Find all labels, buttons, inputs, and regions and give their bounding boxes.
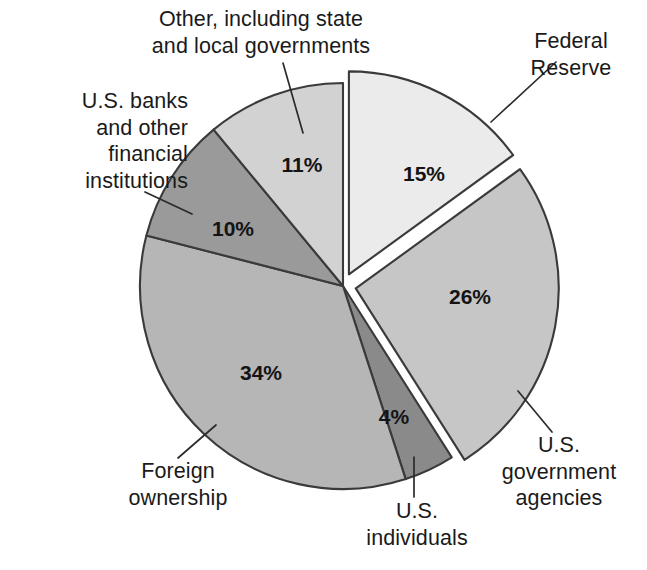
value-label-foreign-ownership: 34% bbox=[240, 361, 282, 384]
value-label-federal-reserve: 15% bbox=[403, 162, 445, 185]
value-label-other-state-local: 11% bbox=[282, 153, 323, 176]
label-us-government-agencies: U.S. government agencies bbox=[476, 432, 642, 512]
value-label-us-government-agencies: 26% bbox=[449, 285, 491, 308]
leader-line-foreign-ownership bbox=[178, 425, 216, 458]
value-label-us-banks: 10% bbox=[212, 217, 254, 240]
value-label-us-individuals: 4% bbox=[379, 405, 410, 428]
label-foreign-ownership: Foreign ownership bbox=[92, 458, 264, 511]
label-us-individuals: U.S. individuals bbox=[352, 498, 482, 551]
pie-slices bbox=[140, 71, 559, 489]
label-federal-reserve: Federal Reserve bbox=[506, 28, 636, 81]
pie-chart-figure: 15% 26% 4% 34% 10% 11% Other, including … bbox=[0, 0, 647, 570]
label-us-banks: U.S. banks and other financial instituti… bbox=[8, 88, 188, 194]
leader-line-us-government-agencies bbox=[518, 391, 552, 432]
label-other-state-local: Other, including state and local governm… bbox=[127, 6, 395, 59]
